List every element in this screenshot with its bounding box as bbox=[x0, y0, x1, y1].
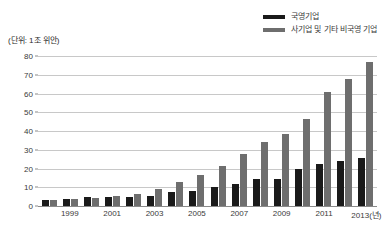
bar-state-2009 bbox=[274, 179, 281, 206]
bar-group bbox=[334, 56, 355, 206]
bar-group bbox=[355, 56, 376, 206]
bar-private-2001 bbox=[113, 196, 120, 206]
bar-state-2011 bbox=[316, 164, 323, 206]
bar-state-2002 bbox=[126, 197, 133, 206]
bar-group bbox=[229, 56, 250, 206]
bar-state-1999 bbox=[63, 199, 70, 206]
bar-private-1998 bbox=[50, 200, 57, 206]
bar-state-2003 bbox=[147, 196, 154, 206]
x-axis-label-2001: 2001 bbox=[103, 209, 121, 218]
chart-legend: 국영기업 사기업 및 기타 비국영 기업 bbox=[263, 12, 377, 34]
bar-state-2010 bbox=[295, 169, 302, 206]
y-axis-tick-30: 30 bbox=[24, 145, 33, 154]
x-axis-labels: 19992001200320052007200920112013(년) bbox=[38, 209, 377, 223]
x-axis-label-2009: 2009 bbox=[273, 209, 291, 218]
bar-groups bbox=[38, 56, 377, 206]
legend-item-private: 사기업 및 기타 비국영 기업 bbox=[263, 25, 377, 34]
bar-group bbox=[250, 56, 271, 206]
y-axis-tick-0: 0 bbox=[29, 202, 33, 211]
x-axis-label-2007: 2007 bbox=[230, 209, 248, 218]
bar-private-1999 bbox=[71, 199, 78, 206]
bar-group bbox=[271, 56, 292, 206]
bar-private-2007 bbox=[240, 154, 247, 206]
bar-state-2006 bbox=[211, 187, 218, 206]
bar-private-2013 bbox=[366, 62, 373, 206]
y-axis-tick-50: 50 bbox=[24, 108, 33, 117]
y-axis-tick-60: 60 bbox=[24, 89, 33, 98]
bar-private-2012 bbox=[345, 79, 352, 206]
bar-group bbox=[208, 56, 229, 206]
bar-state-2005 bbox=[189, 191, 196, 206]
plot-area: 80706050403020100 bbox=[38, 56, 377, 206]
y-axis-tick-10: 10 bbox=[24, 183, 33, 192]
bar-state-2012 bbox=[337, 161, 344, 206]
bar-state-1998 bbox=[42, 200, 49, 206]
bar-private-2003 bbox=[155, 189, 162, 206]
bar-group bbox=[186, 56, 207, 206]
y-axis-tick-70: 70 bbox=[24, 70, 33, 79]
x-axis-label-2005: 2005 bbox=[188, 209, 206, 218]
bar-group bbox=[60, 56, 81, 206]
bar-group bbox=[292, 56, 313, 206]
legend-swatch-state bbox=[263, 15, 285, 19]
bar-private-2002 bbox=[134, 194, 141, 206]
bar-private-2009 bbox=[282, 134, 289, 206]
bar-private-2000 bbox=[92, 198, 99, 206]
x-axis-label-2011: 2011 bbox=[315, 209, 332, 218]
bar-group bbox=[123, 56, 144, 206]
bar-state-2000 bbox=[84, 197, 91, 206]
legend-label-private: 사기업 및 기타 비국영 기업 bbox=[291, 25, 377, 34]
bar-private-2008 bbox=[261, 142, 268, 206]
bar-private-2005 bbox=[197, 175, 204, 206]
bar-group bbox=[102, 56, 123, 206]
bar-group bbox=[144, 56, 165, 206]
bar-group bbox=[39, 56, 60, 206]
x-axis-label-2013: 2013(년) bbox=[351, 209, 381, 220]
legend-item-state: 국영기업 bbox=[263, 12, 319, 21]
bar-private-2006 bbox=[219, 166, 226, 206]
x-axis-label-1999: 1999 bbox=[61, 209, 79, 218]
bar-state-2004 bbox=[168, 192, 175, 206]
chart-root: 국영기업 사기업 및 기타 비국영 기업 (단위: 1조 위안) 8070605… bbox=[0, 0, 385, 243]
bar-state-2007 bbox=[232, 184, 239, 207]
x-axis-label-2003: 2003 bbox=[146, 209, 164, 218]
y-axis-tick-80: 80 bbox=[24, 52, 33, 61]
y-axis-tick-40: 40 bbox=[24, 127, 33, 136]
bar-private-2004 bbox=[176, 182, 183, 206]
bar-private-2010 bbox=[303, 119, 310, 206]
bar-group bbox=[313, 56, 334, 206]
unit-caption: (단위: 1조 위안) bbox=[8, 34, 59, 45]
bar-group bbox=[81, 56, 102, 206]
bar-state-2008 bbox=[253, 179, 260, 206]
legend-label-state: 국영기업 bbox=[291, 12, 319, 21]
y-axis-tick-20: 20 bbox=[24, 164, 33, 173]
gridline-0 bbox=[38, 206, 377, 207]
bar-group bbox=[165, 56, 186, 206]
bar-state-2001 bbox=[105, 197, 112, 206]
legend-swatch-private bbox=[263, 28, 285, 32]
bar-private-2011 bbox=[324, 92, 331, 206]
bar-state-2013 bbox=[358, 158, 365, 206]
